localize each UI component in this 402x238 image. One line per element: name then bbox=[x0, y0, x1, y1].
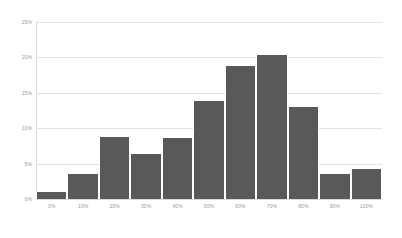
bar bbox=[256, 55, 287, 199]
bar-slot bbox=[351, 22, 382, 199]
x-axis-tick-label: 30% bbox=[130, 203, 161, 209]
y-axis-tick-label: 10% bbox=[6, 125, 32, 131]
x-axis-tick-label: 20% bbox=[99, 203, 130, 209]
x-axis-tick-label: 90% bbox=[319, 203, 350, 209]
bar-slot bbox=[130, 22, 161, 199]
gridline bbox=[36, 199, 382, 200]
bar-slot bbox=[319, 22, 350, 199]
x-axis-tick-labels: 0%10%20%30%40%50%60%70%80%90%100% bbox=[36, 203, 382, 209]
bar bbox=[162, 138, 193, 199]
bar-slot bbox=[67, 22, 98, 199]
x-axis-tick-label: 50% bbox=[193, 203, 224, 209]
x-axis-tick-label: 40% bbox=[162, 203, 193, 209]
x-axis-tick-label: 80% bbox=[288, 203, 319, 209]
x-axis-tick-label: 10% bbox=[67, 203, 98, 209]
bar-slot bbox=[288, 22, 319, 199]
bar bbox=[351, 169, 382, 199]
bar-slot bbox=[36, 22, 67, 199]
x-axis-tick-label: 100% bbox=[351, 203, 382, 209]
bar-slot bbox=[256, 22, 287, 199]
bar bbox=[36, 192, 67, 199]
bar bbox=[67, 174, 98, 199]
y-axis-tick-label: 25% bbox=[6, 19, 32, 25]
bar bbox=[130, 154, 161, 199]
bar-slot bbox=[99, 22, 130, 199]
bar-series bbox=[36, 22, 382, 199]
bar bbox=[225, 66, 256, 199]
bar-slot bbox=[162, 22, 193, 199]
bar bbox=[193, 101, 224, 199]
bar-slot bbox=[193, 22, 224, 199]
y-axis-tick-label: 15% bbox=[6, 90, 32, 96]
x-axis-tick-label: 70% bbox=[256, 203, 287, 209]
y-axis-tick-label: 0% bbox=[6, 196, 32, 202]
bar bbox=[99, 137, 130, 199]
bar bbox=[288, 107, 319, 199]
bar bbox=[319, 174, 350, 199]
x-axis-tick-label: 60% bbox=[225, 203, 256, 209]
bar-chart: 0%5%10%15%20%25% 0%10%20%30%40%50%60%70%… bbox=[0, 0, 402, 238]
y-axis-tick-label: 5% bbox=[6, 161, 32, 167]
x-axis-tick-label: 0% bbox=[36, 203, 67, 209]
bar-slot bbox=[225, 22, 256, 199]
y-axis-tick-label: 20% bbox=[6, 54, 32, 60]
plot-area bbox=[36, 22, 382, 199]
